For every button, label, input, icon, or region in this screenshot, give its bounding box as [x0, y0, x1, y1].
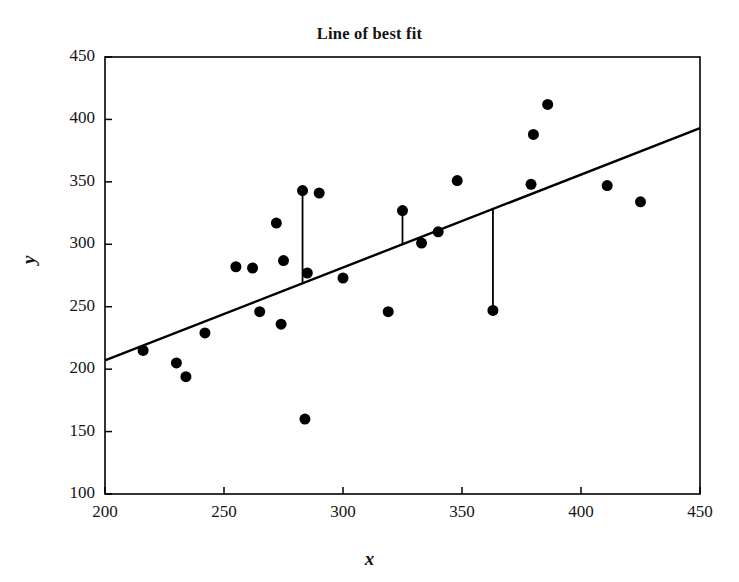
y-axis-label: y	[18, 256, 40, 264]
y-tick-label: 250	[49, 296, 95, 316]
data-point	[302, 268, 313, 279]
y-tick-label: 150	[49, 421, 95, 441]
data-point	[297, 185, 308, 196]
x-tick-label: 400	[554, 502, 608, 522]
data-point	[199, 327, 210, 338]
data-point	[180, 371, 191, 382]
plot-border	[105, 57, 700, 494]
data-point	[338, 272, 349, 283]
data-point	[397, 205, 408, 216]
x-tick-label: 300	[316, 502, 370, 522]
data-point	[314, 188, 325, 199]
data-point	[254, 306, 265, 317]
chart-title: Line of best fit	[0, 24, 739, 44]
data-point	[635, 196, 646, 207]
y-tick-label: 450	[49, 46, 95, 66]
data-point	[276, 319, 287, 330]
data-point	[299, 414, 310, 425]
data-point	[452, 175, 463, 186]
data-point	[171, 357, 182, 368]
axis-ticks	[105, 57, 700, 494]
x-tick-label: 250	[197, 502, 251, 522]
data-point	[528, 129, 539, 140]
x-tick-label: 200	[78, 502, 132, 522]
y-tick-label: 200	[49, 358, 95, 378]
data-point	[416, 238, 427, 249]
chart-figure: Line of best fit y x 1001502002503003504…	[0, 0, 739, 582]
data-point	[230, 261, 241, 272]
plot-frame	[105, 57, 700, 494]
y-tick-label: 350	[49, 171, 95, 191]
data-point	[271, 218, 282, 229]
x-tick-label: 450	[673, 502, 727, 522]
data-point	[602, 180, 613, 191]
data-points	[138, 99, 646, 425]
y-tick-label: 300	[49, 233, 95, 253]
y-tick-label: 100	[49, 483, 95, 503]
data-point	[542, 99, 553, 110]
y-tick-label: 400	[49, 108, 95, 128]
scatter-plot-canvas	[0, 0, 739, 582]
x-tick-label: 350	[435, 502, 489, 522]
data-point	[138, 345, 149, 356]
data-point	[247, 263, 258, 274]
x-axis-label: x	[0, 548, 739, 570]
data-point	[526, 179, 537, 190]
data-point	[383, 306, 394, 317]
data-point	[278, 255, 289, 266]
best-fit-line	[105, 128, 700, 360]
data-point	[487, 305, 498, 316]
regression-line	[105, 128, 700, 360]
data-point	[433, 226, 444, 237]
